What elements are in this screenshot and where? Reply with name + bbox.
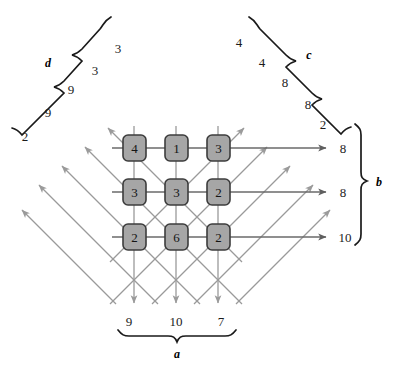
grid-cell-value: 3 [173,185,180,200]
label-a-value-0: 9 [126,315,133,328]
grid-cell-value: 2 [215,185,222,200]
label-b-value-2: 10 [339,231,352,244]
grid-cell[interactable]: 4 [123,135,146,161]
brace-a [118,330,236,342]
grid-cell-value: 2 [131,230,138,245]
grid-cell[interactable]: 3 [207,135,230,161]
label-a-value-2: 7 [218,315,225,328]
grid-cell[interactable]: 3 [165,179,188,205]
grid-cell[interactable]: 2 [123,224,146,250]
grid-cell-value: 2 [215,230,222,245]
diagram-canvas: 4 1 3 3 3 2 [0,0,396,367]
label-b-value-1: 8 [340,186,347,199]
grid-cell-value: 4 [131,141,138,156]
label-d-value-3: 9 [45,106,52,119]
group-label-a: a [174,348,180,360]
grid-cell[interactable]: 6 [165,224,188,250]
label-c-value-3: 8 [305,98,312,111]
label-c-value-4: 2 [320,118,327,131]
label-b-value-0: 8 [340,142,347,155]
brace-b [355,124,367,245]
grid-cell-value: 6 [173,230,180,245]
grid-cell[interactable]: 2 [207,179,230,205]
group-label-d: d [45,57,51,69]
label-d-value-4: 2 [22,130,29,143]
grid-cell[interactable]: 3 [123,179,146,205]
label-d-value-1: 3 [92,64,99,77]
group-label-b: b [376,176,382,188]
diagram-svg: 4 1 3 3 3 2 [0,0,396,367]
label-d-value-2: 9 [68,83,75,96]
label-d-value-0: 3 [115,42,122,55]
label-c-value-2: 8 [282,76,289,89]
grid-cell[interactable]: 1 [165,135,188,161]
label-c-value-0: 4 [236,36,243,49]
group-label-c: c [306,49,311,61]
grid-cell-value: 1 [173,141,180,156]
grid-cell[interactable]: 2 [207,224,230,250]
grid: 4 1 3 3 3 2 [123,135,230,250]
grid-cell-value: 3 [215,141,222,156]
label-a-value-1: 10 [170,315,183,328]
brace-c [249,17,351,134]
grid-cell-value: 3 [131,185,138,200]
label-c-value-1: 4 [259,56,266,69]
